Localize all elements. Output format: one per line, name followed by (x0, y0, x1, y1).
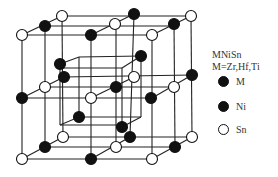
atom-sn (169, 82, 180, 93)
atom-sn (147, 30, 158, 41)
atom-sn (86, 93, 97, 104)
atom-ni (117, 122, 128, 133)
atom-m (170, 142, 181, 153)
atom-m (187, 70, 198, 81)
legend-sn-marker-icon (218, 124, 229, 135)
half-heusler-crystal-structure (0, 0, 278, 177)
legend-m-marker-icon (218, 76, 229, 87)
atom-sn (129, 72, 140, 83)
atom-m (59, 72, 70, 83)
atom-sn (110, 19, 121, 30)
atom-ni (136, 51, 147, 62)
atom-m (17, 93, 28, 104)
atom-ni (55, 59, 66, 70)
atom-sn (111, 142, 122, 153)
atom-m (146, 93, 157, 104)
legend-m-label: M (236, 76, 245, 88)
legend-sn-label: Sn (236, 124, 247, 136)
atom-sn (147, 154, 158, 165)
atom-sn (57, 11, 68, 22)
atom-m (125, 132, 136, 143)
atom-m (169, 19, 180, 30)
atom-sn (17, 30, 28, 41)
element-substitution-label: M=Zr,Hf,Ti (212, 61, 260, 73)
atom-sn (17, 154, 28, 165)
atom-sn (187, 132, 198, 143)
formula-label: MNiSn (212, 49, 241, 61)
atom-ni (74, 112, 85, 123)
atom-sn (58, 132, 69, 143)
atom-sn (186, 11, 197, 22)
atom-m (40, 21, 51, 32)
atom-m (129, 9, 140, 20)
atom-m (86, 154, 97, 165)
atom-sn (40, 82, 51, 93)
legend-ni-marker-icon (218, 101, 229, 112)
legend-ni-label: Ni (236, 101, 246, 113)
atom-m (40, 142, 51, 153)
atom-m (111, 82, 122, 93)
atom-m (86, 30, 97, 41)
